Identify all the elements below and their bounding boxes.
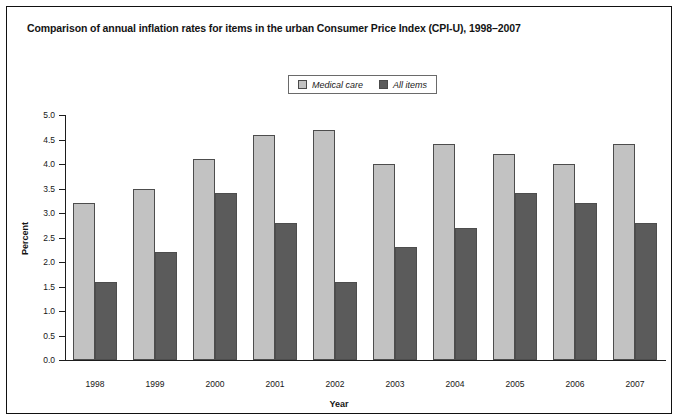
legend-swatch-all-items <box>379 80 388 89</box>
x-axis-title: Year <box>7 399 671 409</box>
bar-group <box>373 115 417 360</box>
x-axis-line <box>65 360 666 361</box>
bar-group <box>433 115 477 360</box>
x-tick-label: 2007 <box>605 379 665 389</box>
bar-group <box>613 115 657 360</box>
x-tick-label: 2002 <box>305 379 365 389</box>
x-tick-label: 2000 <box>185 379 245 389</box>
y-tick-label: 0.5 <box>7 331 55 341</box>
y-tick-label: 4.0 <box>7 159 55 169</box>
x-tick-label: 2005 <box>485 379 545 389</box>
y-tick-label: 3.0 <box>7 208 55 218</box>
bar-all-items <box>215 193 237 360</box>
bar-group <box>313 115 357 360</box>
bar-medical-care <box>373 164 395 360</box>
figure-border: Comparison of annual inflation rates for… <box>6 6 672 414</box>
bar-all-items <box>95 282 117 360</box>
bar-group <box>253 115 297 360</box>
bar-medical-care <box>133 189 155 361</box>
y-tick-label: 0.0 <box>7 355 55 365</box>
bar-medical-care <box>253 135 275 360</box>
chart-legend: Medical care All items <box>288 75 437 94</box>
bar-medical-care <box>553 164 575 360</box>
bar-medical-care <box>73 203 95 360</box>
y-tick-label: 4.5 <box>7 135 55 145</box>
bar-group <box>193 115 237 360</box>
plot-area <box>65 115 665 360</box>
bar-all-items <box>635 223 657 360</box>
chart-figure: Comparison of annual inflation rates for… <box>0 0 678 420</box>
y-tick-label: 3.5 <box>7 184 55 194</box>
bar-medical-care <box>613 144 635 360</box>
y-tick-label: 5.0 <box>7 110 55 120</box>
y-tick-label: 1.0 <box>7 306 55 316</box>
bar-group <box>73 115 117 360</box>
bar-all-items <box>515 193 537 360</box>
x-tick-label: 2001 <box>245 379 305 389</box>
legend-swatch-medical-care <box>298 80 307 89</box>
bar-group <box>133 115 177 360</box>
bar-all-items <box>455 228 477 360</box>
x-tick-label: 1999 <box>125 379 185 389</box>
y-tick-label: 2.5 <box>7 233 55 243</box>
legend-item-medical-care: Medical care <box>298 80 363 90</box>
y-tick-label: 1.5 <box>7 282 55 292</box>
bar-medical-care <box>493 154 515 360</box>
bar-all-items <box>575 203 597 360</box>
legend-label-all-items: All items <box>393 80 427 90</box>
bar-medical-care <box>193 159 215 360</box>
x-tick-label: 1998 <box>65 379 125 389</box>
bar-medical-care <box>433 144 455 360</box>
x-tick-label: 2004 <box>425 379 485 389</box>
bar-all-items <box>335 282 357 360</box>
bar-all-items <box>395 247 417 360</box>
bar-medical-care <box>313 130 335 360</box>
bar-all-items <box>275 223 297 360</box>
legend-item-all-items: All items <box>379 80 427 90</box>
bar-all-items <box>155 252 177 360</box>
bar-group <box>553 115 597 360</box>
y-tick-label: 2.0 <box>7 257 55 267</box>
x-tick-label: 2006 <box>545 379 605 389</box>
chart-title: Comparison of annual inflation rates for… <box>27 22 521 34</box>
legend-label-medical-care: Medical care <box>312 80 363 90</box>
bar-group <box>493 115 537 360</box>
y-tick-mark <box>59 360 65 361</box>
x-tick-label: 2003 <box>365 379 425 389</box>
